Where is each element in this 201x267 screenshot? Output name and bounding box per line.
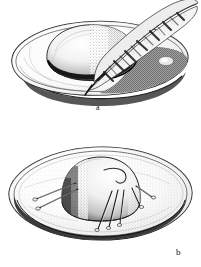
illustration-plate: a — [0, 0, 201, 267]
figure-a-caption: a — [96, 104, 100, 112]
figure-a-drawing — [0, 0, 201, 122]
figure-b-caption: b — [176, 248, 181, 256]
figure-b-hat-with-pins — [0, 126, 201, 267]
figure-a-hat-with-feather — [0, 0, 201, 122]
figure-b-drawing — [0, 126, 201, 267]
